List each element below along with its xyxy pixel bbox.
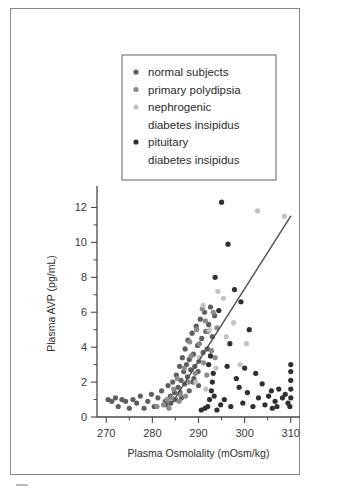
regression-line <box>171 216 291 405</box>
y-axis-title: Plasma AVP (pg/mL) <box>45 255 57 351</box>
data-point <box>274 404 279 409</box>
data-point <box>189 331 194 336</box>
data-point <box>260 381 265 386</box>
data-point <box>221 296 226 301</box>
data-point <box>201 303 206 308</box>
data-point <box>270 406 275 411</box>
data-point <box>231 320 236 325</box>
data-point <box>166 406 171 411</box>
data-point <box>141 406 146 411</box>
y-tick-label: 2 <box>81 376 87 388</box>
data-point <box>145 399 150 404</box>
data-point <box>240 400 245 405</box>
y-tick-label: 8 <box>81 271 87 283</box>
data-point <box>228 404 233 409</box>
data-point <box>276 386 281 391</box>
legend-label: diabetes insipidus <box>148 154 240 166</box>
data-point <box>198 317 203 322</box>
data-point <box>283 392 288 397</box>
data-point <box>134 400 139 405</box>
data-point <box>210 379 215 384</box>
legend-label: normal subjects <box>148 66 229 78</box>
data-point <box>234 376 239 381</box>
y-tick-label: 6 <box>81 306 87 318</box>
x-axis-tick-labels: 270280290300310 <box>97 427 300 439</box>
data-point <box>211 371 216 376</box>
data-point <box>245 390 250 395</box>
data-point <box>149 392 154 397</box>
data-point <box>155 395 160 400</box>
x-tick-label: 300 <box>235 427 253 439</box>
data-point <box>212 393 217 398</box>
data-points <box>105 200 293 413</box>
data-point <box>219 200 224 205</box>
legend: normal subjectsprimary polydipsianephrog… <box>122 55 276 180</box>
legend-marker <box>133 104 138 109</box>
data-point <box>256 395 261 400</box>
data-point <box>199 407 204 412</box>
data-point <box>227 341 232 346</box>
data-point <box>165 397 170 402</box>
y-tick-label: 0 <box>81 411 87 423</box>
data-point <box>218 402 223 407</box>
data-point <box>288 386 293 391</box>
x-tick-label: 270 <box>97 427 115 439</box>
data-point <box>123 399 128 404</box>
data-point <box>113 395 118 400</box>
data-point <box>175 376 180 381</box>
y-tick-label: 4 <box>81 341 87 353</box>
data-point <box>116 404 121 409</box>
x-axis-title: Plasma Osmolality (mOsm/kg) <box>128 447 270 459</box>
data-point <box>177 364 182 369</box>
data-point <box>171 386 176 391</box>
data-point <box>187 388 192 393</box>
plot-canvas: 270280290300310 024681012 Plasma Osmolal… <box>0 0 350 500</box>
data-point <box>262 402 267 407</box>
data-point <box>242 366 247 371</box>
data-point <box>253 371 258 376</box>
legend-marker <box>133 87 138 92</box>
data-point <box>213 275 218 280</box>
data-point <box>288 378 293 383</box>
data-point <box>183 393 188 398</box>
data-point <box>238 299 243 304</box>
data-point <box>208 353 213 358</box>
data-point <box>224 334 229 339</box>
data-point <box>244 341 249 346</box>
data-point <box>225 364 230 369</box>
data-point <box>187 339 192 344</box>
data-point <box>207 397 212 402</box>
data-point <box>237 362 242 367</box>
data-point <box>197 341 202 346</box>
y-tick-label: 10 <box>75 236 87 248</box>
data-point <box>193 371 198 376</box>
data-point <box>159 388 164 393</box>
data-point <box>201 360 206 365</box>
data-point <box>285 400 290 405</box>
data-point <box>209 348 214 353</box>
legend-marker <box>133 69 138 74</box>
data-point <box>222 397 227 402</box>
data-point <box>206 362 211 367</box>
data-point <box>161 402 166 407</box>
data-point <box>255 208 260 213</box>
data-point <box>247 327 252 332</box>
data-point <box>288 362 293 367</box>
data-point <box>177 399 182 404</box>
data-point <box>199 336 204 341</box>
data-point <box>193 379 198 384</box>
data-point <box>203 386 208 391</box>
y-tick-label: 12 <box>75 201 87 213</box>
data-point <box>282 214 287 219</box>
data-point <box>266 393 271 398</box>
data-point <box>154 404 159 409</box>
data-point <box>216 308 221 313</box>
data-point <box>237 385 242 390</box>
data-point <box>288 395 293 400</box>
data-point <box>203 318 208 323</box>
x-tick-label: 280 <box>143 427 161 439</box>
data-point <box>272 399 277 404</box>
legend-label: nephrogenic <box>148 101 212 113</box>
data-point <box>194 327 199 332</box>
x-tick-label: 310 <box>282 427 300 439</box>
